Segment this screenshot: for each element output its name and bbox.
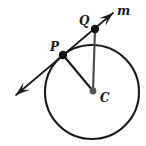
point-q-dot — [91, 25, 99, 33]
segment-center-to-p-radius — [63, 55, 93, 91]
point-c-dot — [90, 88, 97, 95]
point-p-label: P — [50, 41, 59, 53]
geometry-figure: P Q C m — [0, 0, 146, 146]
point-c-label: C — [100, 92, 110, 104]
geometry-canvas — [0, 0, 146, 146]
line-m-label: m — [117, 5, 130, 18]
point-q-label: Q — [79, 15, 89, 27]
point-p-dot — [59, 51, 67, 59]
segment-center-to-q — [93, 29, 95, 91]
